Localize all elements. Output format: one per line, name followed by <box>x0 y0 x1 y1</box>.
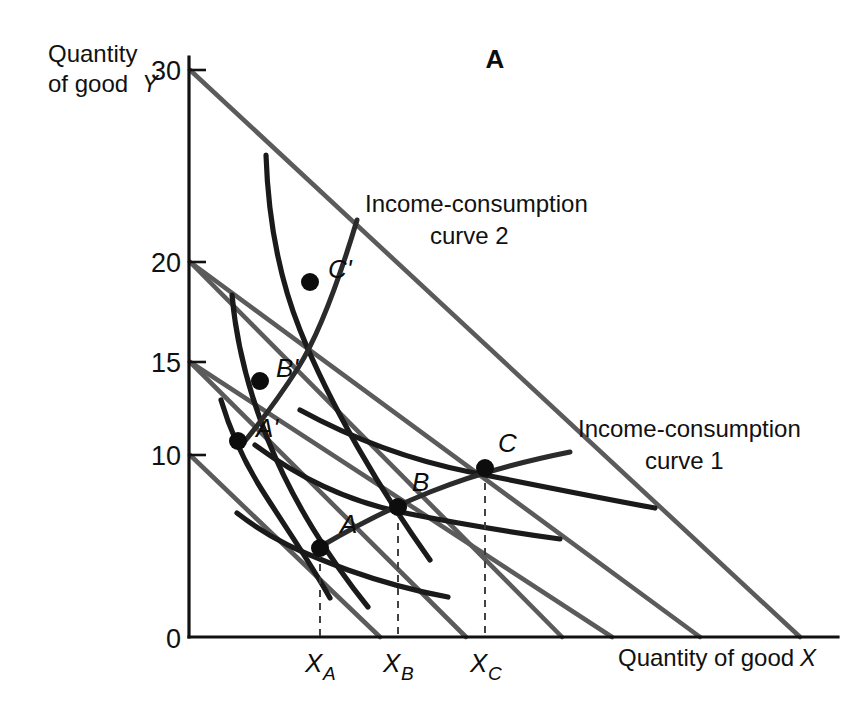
point-label-B: B <box>412 467 429 497</box>
x-tick-label-xc-sub: C <box>488 663 502 684</box>
equilibrium-dot-C-prime <box>301 273 319 291</box>
x-axis-tick-labels-group: X A X B X C <box>304 648 502 684</box>
annotation-icc2-line2: curve 2 <box>430 222 509 249</box>
x-tick-label-xb-main: X <box>382 648 402 678</box>
x-tick-label-xa-main: X <box>304 648 324 678</box>
x-tick-label-xc: X C <box>469 648 502 684</box>
budget-line-5 <box>190 262 700 637</box>
equilibrium-dot-B-prime <box>251 372 269 390</box>
y-tick-label-15: 15 <box>151 348 181 378</box>
equilibrium-dot-C <box>476 459 494 477</box>
x-tick-label-xb: X B <box>382 648 414 684</box>
x-axis-caption: Quantity of good X <box>618 644 817 671</box>
point-label-C: C <box>498 428 517 458</box>
income-consumption-curve-chart: 30 20 15 10 0 A B C A' B' C' X A X B <box>0 0 841 714</box>
point-label-C-prime: C' <box>328 254 353 284</box>
point-label-A-prime: A' <box>254 413 279 443</box>
y-axis-ticks-group <box>189 70 206 455</box>
y-axis-caption-variable: Y <box>142 70 160 97</box>
equilibrium-dot-A <box>311 539 329 557</box>
y-axis-caption-line1: Quantity <box>48 40 137 67</box>
annotation-icc2-line1: Income-consumption <box>365 190 588 217</box>
x-axis-caption-variable: X <box>799 644 817 671</box>
equilibrium-dot-B <box>389 498 407 516</box>
annotation-icc1-line1: Income-consumption <box>578 415 801 442</box>
annotation-income-consumption-curve-2: Income-consumption curve 2 <box>365 190 588 249</box>
x-tick-label-xa: X A <box>304 648 336 684</box>
x-tick-label-xa-sub: A <box>322 663 336 684</box>
point-label-A: A <box>338 509 357 539</box>
x-axis-caption-text: Quantity of good <box>618 644 794 671</box>
figure-root: 30 20 15 10 0 A B C A' B' C' X A X B <box>0 0 841 714</box>
y-axis-caption-line2: of good <box>48 70 128 97</box>
panel-title: A <box>486 44 505 74</box>
annotation-icc1-line2: curve 1 <box>645 447 724 474</box>
x-tick-label-xc-main: X <box>469 648 489 678</box>
y-tick-label-20: 20 <box>151 248 181 278</box>
y-axis-tick-labels-group: 30 20 15 10 0 <box>151 56 181 654</box>
y-tick-label-10: 10 <box>151 441 181 471</box>
y-axis-caption: Quantity of good Y <box>48 40 160 97</box>
annotation-income-consumption-curve-1: Income-consumption curve 1 <box>578 415 801 474</box>
x-tick-label-xb-sub: B <box>401 663 414 684</box>
point-label-B-prime: B' <box>276 353 299 383</box>
y-tick-label-0: 0 <box>166 624 181 654</box>
equilibrium-dot-A-prime <box>229 432 247 450</box>
